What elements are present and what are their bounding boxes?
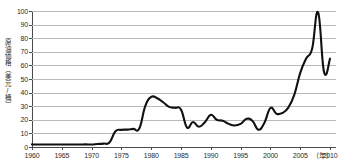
series-line-crude-oil-price bbox=[32, 12, 330, 145]
